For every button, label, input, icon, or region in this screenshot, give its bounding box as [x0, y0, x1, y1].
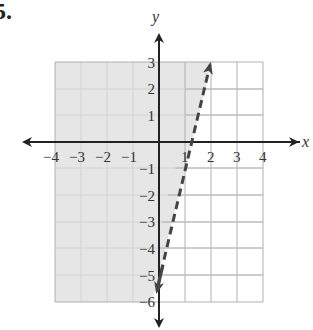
- svg-text:3: 3: [148, 55, 156, 71]
- svg-text:−2: −2: [139, 188, 155, 204]
- svg-text:4: 4: [259, 149, 267, 165]
- svg-text:3: 3: [233, 149, 241, 165]
- svg-text:−4: −4: [139, 241, 155, 257]
- svg-text:1: 1: [148, 108, 156, 124]
- svg-text:−1: −1: [121, 149, 137, 165]
- coordinate-plane: x y −4 −3 −2 −1 1 2 3 4 3 2 1 −1 −2 −3 −…: [0, 0, 313, 330]
- svg-text:−3: −3: [139, 214, 155, 230]
- svg-text:−2: −2: [95, 149, 111, 165]
- svg-text:−6: −6: [139, 294, 155, 310]
- x-axis-label: x: [301, 133, 309, 150]
- svg-text:2: 2: [207, 149, 215, 165]
- svg-text:−1: −1: [139, 161, 155, 177]
- y-axis-label: y: [150, 8, 160, 26]
- svg-text:−3: −3: [69, 149, 85, 165]
- svg-text:2: 2: [148, 81, 156, 97]
- svg-text:−4: −4: [43, 149, 59, 165]
- svg-text:−5: −5: [139, 268, 155, 284]
